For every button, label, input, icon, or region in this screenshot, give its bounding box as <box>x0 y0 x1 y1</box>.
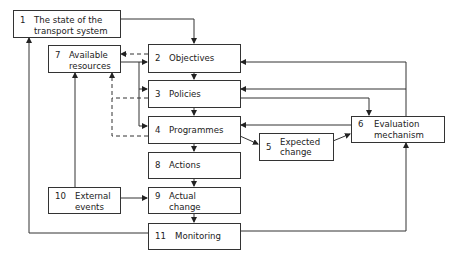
node-number: 10 <box>49 191 75 202</box>
node-evaluation-mechanism: 6 Evaluation mechanism <box>351 116 445 143</box>
node-available-resources: 7 Available resources <box>48 45 121 73</box>
node-objectives: 2 Objectives <box>148 44 241 73</box>
node-number: 9 <box>149 191 169 202</box>
node-number: 8 <box>149 160 169 171</box>
edge-1-to-2 <box>120 19 194 43</box>
node-label: Evaluation mechanism <box>372 119 424 140</box>
edge-7-to-4 <box>139 89 147 126</box>
node-label: Available resources <box>69 50 111 71</box>
node-number: 4 <box>149 125 169 136</box>
node-state-of-transport-system: 1 The state of the transport system <box>13 10 121 38</box>
node-number: 2 <box>149 53 169 64</box>
node-label: Programmes <box>169 125 223 136</box>
node-policies: 3 Policies <box>148 80 241 108</box>
node-label: Policies <box>169 89 201 100</box>
node-label: Actions <box>169 160 200 171</box>
node-label: Objectives <box>169 53 214 64</box>
node-actions: 8 Actions <box>148 152 241 179</box>
node-label: Monitoring <box>175 231 221 242</box>
node-number: 6 <box>352 119 372 130</box>
node-actual-change: 9 Actual change <box>148 187 241 214</box>
node-number: 7 <box>49 50 69 61</box>
node-number: 3 <box>149 89 169 100</box>
node-programmes: 4 Programmes <box>148 116 241 144</box>
node-monitoring: 11 Monitoring <box>148 223 241 250</box>
node-label: External events <box>75 191 111 212</box>
node-expected-change: 5 Expected change <box>259 133 334 161</box>
node-label: The state of the transport system <box>34 15 108 36</box>
edge-3-to-6 <box>240 98 369 115</box>
node-number: 5 <box>260 142 280 153</box>
edge-4-to-7 <box>112 73 148 136</box>
edge-5-to-6 <box>333 134 350 141</box>
edge-4-to-5 <box>240 136 258 144</box>
node-number: 11 <box>149 231 175 242</box>
node-label: Expected change <box>280 137 320 158</box>
node-number: 1 <box>14 15 34 26</box>
node-label: Actual change <box>169 191 201 212</box>
edge-7-to-3 <box>139 62 147 89</box>
node-external-events: 10 External events <box>48 187 121 214</box>
